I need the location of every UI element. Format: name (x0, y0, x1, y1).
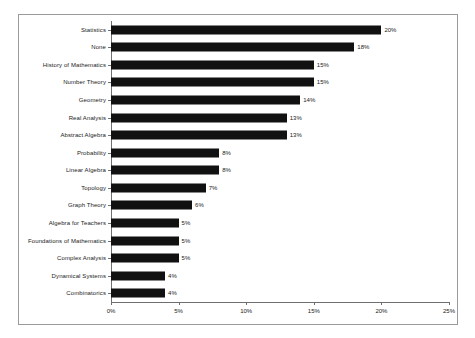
bar-row: Foundations of Mathematics5% (111, 232, 450, 250)
category-label: Complex Analysis (57, 255, 106, 261)
value-axis (111, 302, 449, 303)
chart-figure: Statistics20%None18%History of Mathemati… (18, 14, 458, 325)
bar-row: History of Mathematics15% (111, 56, 450, 74)
bar-value-label: 7% (209, 185, 218, 191)
bar (111, 183, 206, 192)
category-label: Geometry (79, 97, 106, 103)
bar-row: Dynamical Systems4% (111, 267, 450, 285)
bar-value-label: 13% (290, 115, 302, 121)
bar-value-label: 4% (168, 290, 177, 296)
bar-row: Topology7% (111, 179, 450, 197)
bar-value-label: 14% (303, 97, 315, 103)
bar (111, 254, 179, 263)
x-tick-label: 0% (107, 308, 116, 314)
x-tick-label: 15% (308, 308, 320, 314)
bar-row: Algebra for Teachers5% (111, 214, 450, 232)
bar-value-label: 8% (222, 150, 231, 156)
x-tick-label: 10% (240, 308, 252, 314)
bar-row: Real Analysis13% (111, 109, 450, 127)
bar (111, 60, 314, 69)
bar-row: Graph Theory6% (111, 197, 450, 215)
bar-row: Probability8% (111, 144, 450, 162)
category-label: Algebra for Teachers (49, 220, 106, 226)
x-tick-label: 5% (174, 308, 183, 314)
bar (111, 131, 287, 140)
bar (111, 289, 165, 298)
bar-value-label: 15% (317, 79, 329, 85)
plot-area: Statistics20%None18%History of Mathemati… (111, 21, 450, 302)
category-label: Combinatorics (66, 290, 106, 296)
bar-value-label: 4% (168, 273, 177, 279)
category-label: Topology (81, 185, 106, 191)
bar (111, 218, 179, 227)
category-label: Abstract Algebra (60, 132, 106, 138)
bar-value-label: 5% (182, 238, 191, 244)
x-tick-mark (179, 302, 180, 305)
x-tick-label: 25% (443, 308, 455, 314)
bar-row: Geometry14% (111, 91, 450, 109)
x-tick-mark (246, 302, 247, 305)
bar-row: Linear Algebra8% (111, 162, 450, 180)
bar-value-label: 13% (290, 132, 302, 138)
category-label: Linear Algebra (66, 167, 106, 173)
bar-row: Number Theory15% (111, 74, 450, 92)
bar (111, 113, 287, 122)
bar-row: Statistics20% (111, 21, 450, 39)
bar (111, 236, 179, 245)
bar (111, 148, 219, 157)
bar-row: None18% (111, 39, 450, 57)
category-label: Foundations of Mathematics (28, 238, 106, 244)
bar (111, 96, 300, 105)
category-label: History of Mathematics (43, 62, 106, 68)
bar-value-label: 8% (222, 167, 231, 173)
category-label: Dynamical Systems (52, 273, 106, 279)
bar-row: Combinatorics4% (111, 284, 450, 302)
bar-value-label: 5% (182, 220, 191, 226)
category-label: Statistics (81, 27, 106, 33)
bar (111, 43, 354, 52)
bar (111, 271, 165, 280)
bar-value-label: 18% (357, 44, 369, 50)
bar-value-label: 20% (384, 27, 396, 33)
category-label: Graph Theory (68, 202, 106, 208)
bar-value-label: 15% (317, 62, 329, 68)
x-tick-label: 20% (375, 308, 387, 314)
x-tick-mark (111, 302, 112, 305)
bar-value-label: 5% (182, 255, 191, 261)
bar (111, 25, 381, 34)
bar (111, 166, 219, 175)
category-label: None (91, 44, 106, 50)
bar-value-label: 6% (195, 202, 204, 208)
bar (111, 78, 314, 87)
x-tick-mark (449, 302, 450, 305)
bar-row: Abstract Algebra13% (111, 126, 450, 144)
x-tick-mark (381, 302, 382, 305)
bar (111, 201, 192, 210)
bar-row: Complex Analysis5% (111, 249, 450, 267)
category-label: Probability (77, 150, 106, 156)
category-label: Number Theory (63, 79, 106, 85)
x-tick-mark (314, 302, 315, 305)
category-label: Real Analysis (69, 115, 106, 121)
